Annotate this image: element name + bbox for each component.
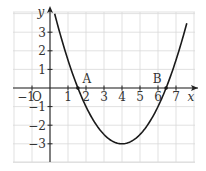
x-tick-label: 6 (154, 90, 162, 104)
x-tick-label: 7 (172, 90, 180, 104)
point-label-b: B (153, 72, 162, 86)
origin-label: O (32, 90, 42, 104)
x-tick-label: 5 (136, 90, 144, 104)
parabola-curve (55, 14, 187, 144)
x-tick-label: 1 (64, 90, 72, 104)
x-tick-label: 2 (82, 90, 90, 104)
x-tick-label: 3 (100, 90, 108, 104)
y-axis-label: y (37, 5, 45, 19)
labels: −11234567321−1−2−3OxyAB (17, 5, 194, 151)
point-label-a: A (82, 72, 92, 86)
x-axis-label: x (188, 90, 195, 104)
y-tick-label: 3 (38, 26, 46, 40)
y-tick-label: −3 (28, 137, 46, 151)
parabola-chart: −11234567321−1−2−3OxyAB (0, 0, 206, 171)
x-tick-label: 4 (118, 90, 126, 104)
y-tick-label: −2 (28, 119, 46, 133)
y-tick-label: 1 (38, 63, 46, 77)
curve-layer (55, 14, 187, 144)
y-tick-label: 2 (38, 44, 46, 58)
